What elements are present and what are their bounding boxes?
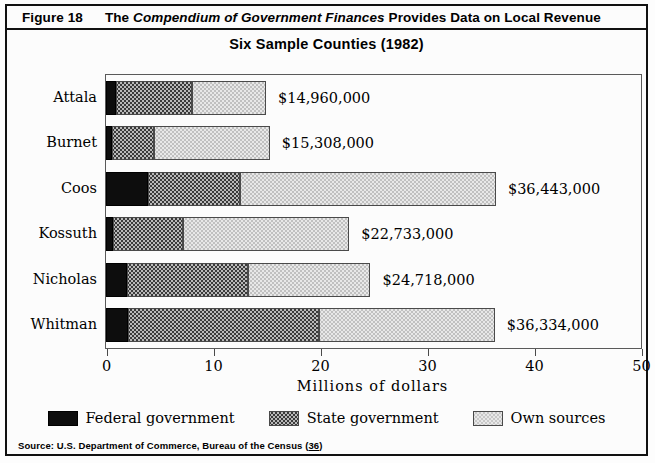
bar-segment-own[interactable] bbox=[183, 217, 349, 251]
bar-value-label: $22,733,000 bbox=[361, 226, 453, 242]
bar-segment-own[interactable] bbox=[240, 172, 496, 206]
category-axis-labels: AttalaBurnetCoosKossuthNicholasWhitman bbox=[7, 6, 107, 454]
category-label-coos: Coos bbox=[61, 180, 97, 196]
chart-legend: Federal governmentState governmentOwn so… bbox=[7, 410, 646, 426]
bar-row[interactable]: $22,733,000 bbox=[106, 217, 641, 251]
bar-segment-federal[interactable] bbox=[106, 172, 148, 206]
figure-container: Figure 18 The Compendium of Government F… bbox=[0, 0, 655, 463]
x-axis-tick-label: 20 bbox=[311, 358, 329, 374]
legend-label: Own sources bbox=[511, 410, 606, 426]
bar-segment-own[interactable] bbox=[192, 81, 266, 115]
bar-row[interactable]: $36,334,000 bbox=[106, 308, 641, 342]
bar-segment-state[interactable] bbox=[148, 172, 240, 206]
x-axis-tick-label: 0 bbox=[102, 358, 111, 374]
plot-wrapper: AttalaBurnetCoosKossuthNicholasWhitman $… bbox=[7, 6, 646, 454]
bar-value-label: $14,960,000 bbox=[278, 90, 370, 106]
x-axis-tick bbox=[214, 349, 215, 356]
bar-value-label: $36,334,000 bbox=[507, 317, 599, 333]
bar-value-label: $36,443,000 bbox=[508, 181, 600, 197]
bar-segment-own[interactable] bbox=[248, 263, 370, 297]
bar-segment-own[interactable] bbox=[319, 308, 495, 342]
bar-segment-federal[interactable] bbox=[106, 263, 127, 297]
x-axis-tick bbox=[107, 349, 108, 356]
bar-row[interactable]: $24,718,000 bbox=[106, 263, 641, 297]
bar-row[interactable]: $36,443,000 bbox=[106, 172, 641, 206]
category-label-kossuth: Kossuth bbox=[38, 225, 97, 241]
bar-value-label: $15,308,000 bbox=[282, 135, 374, 151]
bar-segment-state[interactable] bbox=[127, 263, 248, 297]
legend-swatch-own bbox=[473, 411, 503, 426]
x-axis: 01020304050 bbox=[105, 349, 643, 379]
x-axis-tick-label: 50 bbox=[632, 358, 650, 374]
legend-label: Federal government bbox=[86, 410, 235, 426]
bar-segment-own[interactable] bbox=[154, 126, 270, 160]
legend-label: State government bbox=[307, 410, 439, 426]
bar-row[interactable]: $15,308,000 bbox=[106, 126, 641, 160]
bar-value-label: $24,718,000 bbox=[383, 272, 475, 288]
x-axis-tick bbox=[428, 349, 429, 356]
bar-segment-state[interactable] bbox=[112, 126, 154, 160]
x-axis-tick-label: 30 bbox=[418, 358, 436, 374]
figure-frame: Figure 18 The Compendium of Government F… bbox=[5, 4, 648, 456]
bar-segment-state[interactable] bbox=[128, 308, 318, 342]
category-label-nicholas: Nicholas bbox=[33, 271, 97, 287]
legend-swatch-state bbox=[269, 411, 299, 426]
category-label-attala: Attala bbox=[53, 89, 97, 105]
bar-segment-state[interactable] bbox=[116, 81, 192, 115]
x-axis-tick-label: 10 bbox=[204, 358, 222, 374]
legend-item-state[interactable]: State government bbox=[269, 410, 439, 426]
x-axis-title: Millions of dollars bbox=[105, 378, 640, 394]
x-axis-tick bbox=[321, 349, 322, 356]
x-axis-tick bbox=[642, 349, 643, 356]
source-text-end: ) bbox=[319, 440, 322, 451]
category-label-burnet: Burnet bbox=[46, 134, 97, 150]
bar-segment-federal[interactable] bbox=[106, 81, 116, 115]
bar-row[interactable]: $14,960,000 bbox=[106, 81, 641, 115]
legend-item-own[interactable]: Own sources bbox=[473, 410, 606, 426]
legend-item-federal[interactable]: Federal government bbox=[48, 410, 235, 426]
plot-area: $14,960,000$15,308,000$36,443,000$22,733… bbox=[105, 74, 642, 349]
x-axis-tick bbox=[535, 349, 536, 356]
x-axis-tick-label: 40 bbox=[525, 358, 543, 374]
legend-swatch-federal bbox=[48, 411, 78, 426]
bar-segment-federal[interactable] bbox=[106, 308, 128, 342]
source-text: Source: U.S. Department of Commerce, Bur… bbox=[18, 440, 308, 451]
category-label-whitman: Whitman bbox=[31, 316, 97, 332]
bar-segment-federal[interactable] bbox=[106, 217, 113, 251]
source-note: Source: U.S. Department of Commerce, Bur… bbox=[18, 440, 322, 451]
source-reference: 36 bbox=[308, 440, 319, 451]
bar-segment-state[interactable] bbox=[113, 217, 183, 251]
